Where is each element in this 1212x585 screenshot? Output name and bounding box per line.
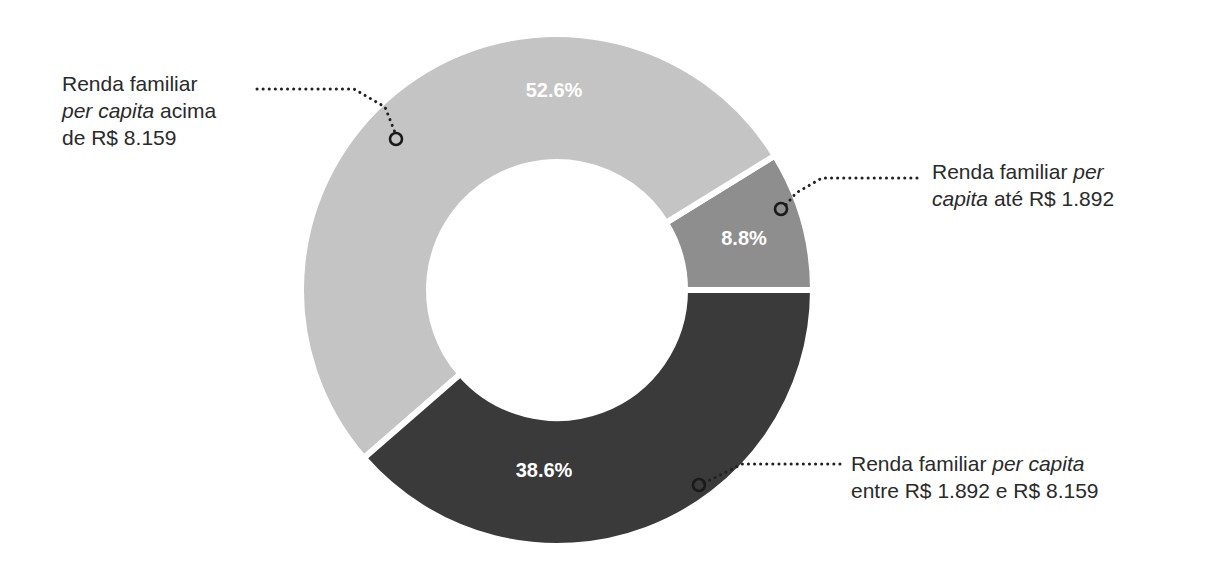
annotation-text: até R$ 1.892 — [988, 187, 1114, 210]
leader-line-ate — [785, 178, 917, 206]
data-label-acima: 52.6% — [526, 79, 583, 101]
data-label-entre: 38.6% — [516, 459, 573, 481]
annotation-entre: Renda familiar per capita entre R$ 1.892… — [851, 450, 1099, 504]
annotation-text: entre R$ 1.892 e R$ 8.159 — [851, 479, 1099, 502]
annotation-italic: capita — [932, 187, 988, 210]
annotation-italic: per — [1073, 160, 1103, 183]
annotation-text: de R$ 8.159 — [62, 126, 176, 149]
annotation-text: Renda familiar — [62, 72, 197, 95]
annotation-text: Renda familiar — [932, 160, 1073, 183]
data-label-ate: 8.8% — [721, 227, 767, 249]
annotation-text: Renda familiar — [851, 452, 992, 475]
annotation-text: acima — [154, 99, 216, 122]
annotation-acima: Renda familiar per capita acima de R$ 8.… — [62, 70, 216, 151]
annotation-italic: per capita — [992, 452, 1084, 475]
annotation-italic: per capita — [62, 99, 154, 122]
annotation-ate: Renda familiar per capita até R$ 1.892 — [932, 158, 1114, 212]
